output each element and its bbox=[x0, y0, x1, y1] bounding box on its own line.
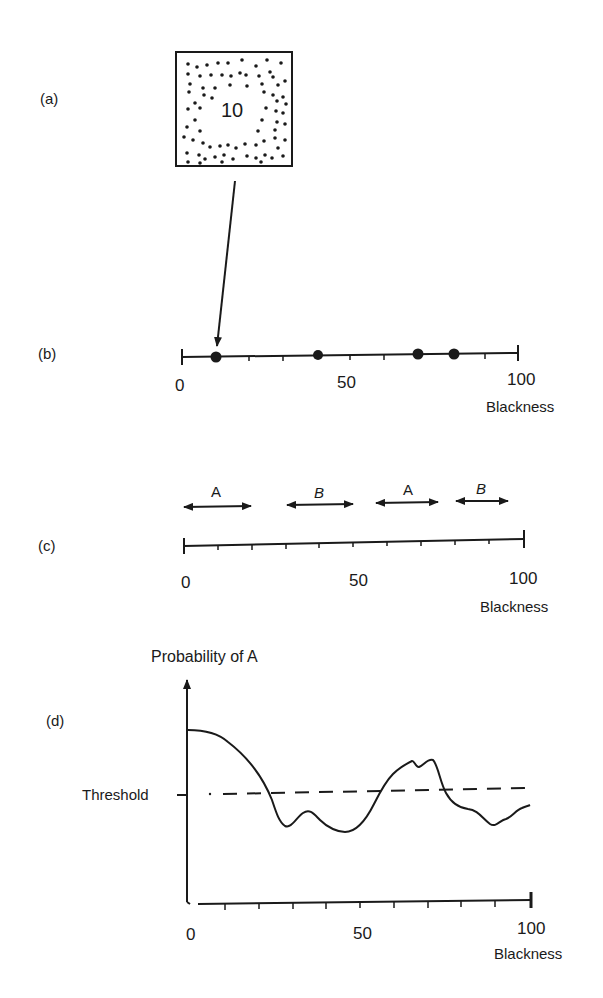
axis-b-max-label: 100 bbox=[507, 370, 535, 390]
axis-c-title: Blackness bbox=[480, 598, 548, 615]
panel-c-axis bbox=[184, 530, 524, 554]
mapping-arrow-icon bbox=[217, 181, 235, 346]
panel-b-axis bbox=[182, 345, 518, 365]
axis-b-mid-label: 50 bbox=[337, 373, 356, 393]
axis-b-min-label: 0 bbox=[175, 376, 184, 396]
panel-c-regions bbox=[184, 501, 508, 507]
probability-curve bbox=[188, 730, 530, 832]
axis-d-max-label: 100 bbox=[517, 919, 545, 939]
y-axis-title: Probability of A bbox=[151, 648, 258, 666]
region-label-b1: B bbox=[314, 484, 324, 501]
panel-d-graph bbox=[177, 680, 531, 910]
stimulus-number: 10 bbox=[221, 99, 243, 122]
axis-c-mid-label: 50 bbox=[349, 571, 368, 591]
axis-d-mid-label: 50 bbox=[353, 924, 372, 944]
threshold-label: Threshold bbox=[82, 786, 149, 803]
region-label-b2: B bbox=[476, 480, 486, 497]
axis-d-title: Blackness bbox=[494, 945, 562, 962]
axis-b-title: Blackness bbox=[486, 398, 554, 415]
axis-d-min-label: 0 bbox=[186, 925, 195, 945]
diagram-canvas bbox=[0, 0, 603, 998]
axis-c-min-label: 0 bbox=[181, 573, 190, 593]
axis-c-max-label: 100 bbox=[509, 569, 537, 589]
region-label-a2: A bbox=[403, 481, 413, 498]
region-label-a1: A bbox=[211, 483, 221, 500]
